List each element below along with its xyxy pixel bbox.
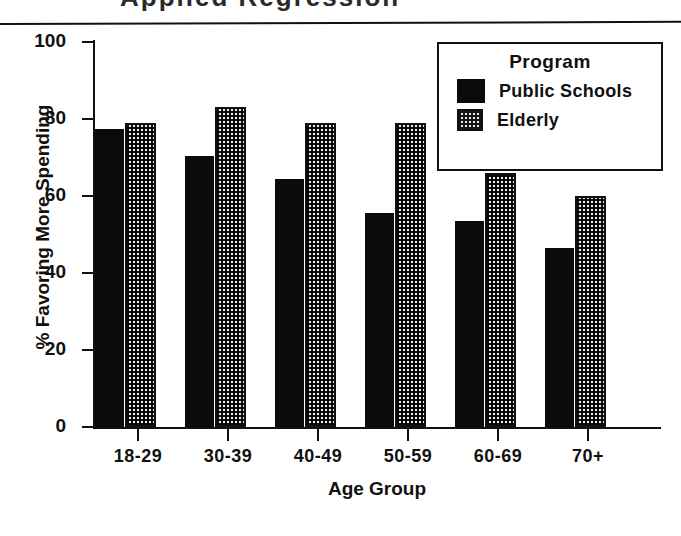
y-tick-label-0: 0 <box>20 416 66 435</box>
x-tick-60-69 <box>497 429 499 441</box>
figure-page: { "page": { "title_remnant": "Applied Re… <box>0 0 681 536</box>
page-title-remnant: Applied Regression <box>0 0 681 16</box>
y-tick-label-60: 60 <box>20 185 66 204</box>
page-divider-rule <box>0 21 681 25</box>
y-tick-40 <box>82 272 94 274</box>
x-axis-line <box>93 427 661 429</box>
bar-50-59-elderly <box>395 123 426 427</box>
legend-swatch-public-schools-icon <box>457 79 485 103</box>
bar-60-69-public-schools <box>455 221 484 427</box>
y-tick-label-20: 20 <box>20 339 66 358</box>
y-tick-100 <box>82 41 94 43</box>
y-tick-80 <box>82 118 94 120</box>
bar-70plus-public-schools <box>545 248 574 427</box>
legend-label-public-schools: Public Schools <box>499 81 632 102</box>
y-tick-label-40: 40 <box>20 262 66 281</box>
y-tick-label-80: 80 <box>20 108 66 127</box>
x-axis-title: Age Group <box>93 478 661 500</box>
x-tick-50-59 <box>407 429 409 441</box>
bar-30-39-elderly <box>215 107 246 427</box>
y-tick-label-100: 100 <box>20 31 66 50</box>
y-tick-0 <box>82 426 94 428</box>
bar-70plus-elderly <box>575 196 606 427</box>
x-tick-18-29 <box>137 429 139 441</box>
bar-50-59-public-schools <box>365 213 394 427</box>
bar-40-49-elderly <box>305 123 336 427</box>
legend-item-public-schools: Public Schools <box>457 79 661 103</box>
bar-40-49-public-schools <box>275 179 304 427</box>
chart-figure: % Favoring More Spending Age Group 100 8… <box>0 26 681 536</box>
legend-box: Program Public Schools Elderly <box>437 42 663 171</box>
x-tick-70plus <box>587 429 589 441</box>
x-tick-label-70plus: 70+ <box>533 446 643 467</box>
bar-18-29-public-schools <box>95 129 124 427</box>
bar-60-69-elderly <box>485 173 516 427</box>
legend-title: Program <box>439 51 661 73</box>
legend-swatch-elderly-icon <box>457 109 483 131</box>
x-tick-30-39 <box>227 429 229 441</box>
y-tick-60 <box>82 195 94 197</box>
bar-18-29-elderly <box>125 123 156 427</box>
legend-item-elderly: Elderly <box>457 109 661 131</box>
bar-30-39-public-schools <box>185 156 214 428</box>
x-tick-40-49 <box>317 429 319 441</box>
legend-label-elderly: Elderly <box>497 110 559 131</box>
y-tick-20 <box>82 349 94 351</box>
